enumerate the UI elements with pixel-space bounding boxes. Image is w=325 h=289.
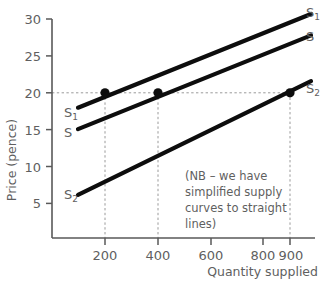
curve-label-s2-right: S2 xyxy=(306,81,320,98)
y-tick-label-15: 15 xyxy=(24,123,41,138)
curve-labels-left: S1 S S2 xyxy=(64,105,78,204)
data-point-s2-900-20 xyxy=(285,88,294,97)
annotation-note-line-1: (NB – we have xyxy=(185,169,267,183)
curve-label-s2-left-base: S xyxy=(64,187,72,202)
x-axis-tick-labels: 200 400 600 800 900 xyxy=(93,248,304,263)
supply-curve-s1 xyxy=(78,14,311,108)
x-axis-ticks xyxy=(105,238,290,245)
curve-label-s2-left-subscript: 2 xyxy=(72,194,78,204)
data-point-s-400-20 xyxy=(153,88,162,97)
x-tick-label-800: 800 xyxy=(251,248,276,263)
curve-label-s2-right-subscript: 2 xyxy=(314,88,320,98)
y-tick-label-30: 30 xyxy=(24,12,41,27)
y-tick-label-10: 10 xyxy=(24,160,41,175)
supply-curves xyxy=(78,14,311,195)
y-axis-ticks xyxy=(46,19,52,203)
x-tick-label-600: 600 xyxy=(199,248,224,263)
supply-curve-s xyxy=(78,35,311,129)
y-tick-label-20: 20 xyxy=(24,86,41,101)
annotation-note-line-4: lines) xyxy=(185,217,216,231)
curve-label-s1-right: S1 xyxy=(306,5,320,22)
annotation-note-line-3: curves to straight xyxy=(185,201,287,215)
curve-label-s2-left: S2 xyxy=(64,187,78,204)
chart-canvas: 30 25 20 15 10 5 200 400 600 800 900 Pri… xyxy=(0,0,325,289)
curve-label-s-left-base: S xyxy=(64,125,72,140)
data-point-s1-200-20 xyxy=(100,88,109,97)
curve-label-s1-right-base: S xyxy=(306,5,314,20)
y-tick-label-25: 25 xyxy=(24,49,41,64)
curve-label-s-left: S xyxy=(64,125,72,140)
curve-label-s1-left-base: S xyxy=(64,105,72,120)
curve-label-s-right-base: S xyxy=(306,29,314,44)
x-axis-title: Quantity supplied xyxy=(207,264,318,279)
x-tick-label-400: 400 xyxy=(146,248,171,263)
x-tick-label-200: 200 xyxy=(93,248,118,263)
curve-label-s1-left: S1 xyxy=(64,105,78,122)
y-tick-label-5: 5 xyxy=(33,196,41,211)
annotation-note: (NB – we have simplified supply curves t… xyxy=(185,169,287,231)
curve-label-s1-right-subscript: 1 xyxy=(314,12,320,22)
guide-lines xyxy=(52,93,292,238)
y-axis-tick-labels: 30 25 20 15 10 5 xyxy=(24,12,41,211)
annotation-note-line-2: simplified supply xyxy=(185,185,282,199)
curve-label-s2-right-base: S xyxy=(306,81,314,96)
curve-labels-right: S1 S S2 xyxy=(306,5,320,98)
y-axis-title: Price (pence) xyxy=(4,119,19,201)
curve-label-s-right: S xyxy=(306,29,314,44)
supply-curve-chart: 30 25 20 15 10 5 200 400 600 800 900 Pri… xyxy=(0,0,325,289)
x-tick-label-900: 900 xyxy=(279,248,304,263)
curve-label-s1-left-subscript: 1 xyxy=(72,112,78,122)
